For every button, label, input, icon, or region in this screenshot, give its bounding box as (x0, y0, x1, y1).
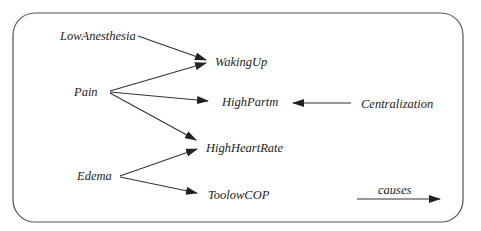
node-pain: Pain (73, 85, 98, 99)
node-centralization: Centralization (361, 97, 433, 111)
legend-causes-label: causes (378, 183, 411, 197)
node-toolowcop: ToolowCOP (208, 188, 270, 202)
node-highpartm: HighPartm (221, 95, 278, 109)
node-edema: Edema (76, 169, 112, 183)
node-lowanesthesia: LowAnesthesia (59, 29, 136, 43)
node-highheartrate: HighHeartRate (205, 141, 284, 155)
node-wakingup: WakingUp (215, 55, 267, 69)
causal-diagram: LowAnesthesia Pain Edema WakingUp HighPa… (0, 0, 481, 231)
